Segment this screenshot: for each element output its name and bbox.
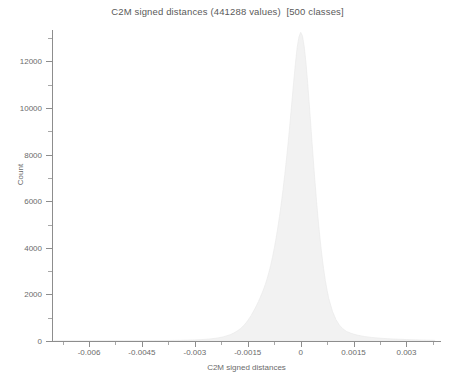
x-tick-mark — [248, 342, 249, 347]
x-tick-mark-minor — [168, 342, 169, 345]
x-tick-mark — [89, 342, 90, 347]
y-tick-mark-minor — [48, 225, 52, 226]
y-tick-mark-minor — [48, 178, 52, 179]
y-tick-mark — [46, 248, 52, 249]
y-tick-mark — [46, 341, 52, 342]
y-tick-label: 2000 — [0, 290, 42, 299]
y-tick-mark — [46, 201, 52, 202]
y-tick-mark — [46, 61, 52, 62]
y-axis-title: Count — [16, 145, 25, 205]
y-tick-mark — [46, 108, 52, 109]
x-tick-mark — [301, 342, 302, 347]
histogram-series — [52, 30, 440, 341]
x-tick-label: 0.0015 — [324, 348, 384, 357]
x-tick-label: -0.0045 — [112, 348, 172, 357]
x-tick-mark-minor — [380, 342, 381, 345]
x-tick-mark — [195, 342, 196, 347]
y-tick-mark — [46, 294, 52, 295]
x-tick-mark-minor — [433, 342, 434, 345]
histogram-chart: C2M signed distances (441288 values) [50… — [0, 0, 455, 380]
x-tick-mark-minor — [115, 342, 116, 345]
y-tick-mark — [46, 155, 52, 156]
x-tick-mark-minor — [63, 342, 64, 345]
x-tick-label: -0.003 — [165, 348, 225, 357]
x-tick-label: 0.003 — [376, 348, 436, 357]
x-tick-mark-minor — [327, 342, 328, 345]
plot-area — [52, 30, 440, 341]
y-tick-label: 4000 — [0, 243, 42, 252]
x-tick-label: 0 — [271, 348, 331, 357]
x-axis-title: C2M signed distances — [52, 363, 441, 372]
x-axis-line — [52, 341, 441, 342]
y-tick-label: 10000 — [0, 104, 42, 113]
histogram-area — [54, 32, 435, 341]
x-tick-mark-minor — [221, 342, 222, 345]
y-tick-label: 0 — [0, 337, 42, 346]
y-tick-label: 12000 — [0, 57, 42, 66]
chart-title: C2M signed distances (441288 values) [50… — [0, 6, 455, 17]
x-tick-label: -0.0015 — [218, 348, 278, 357]
y-tick-mark-minor — [48, 271, 52, 272]
y-tick-mark-minor — [48, 38, 52, 39]
y-axis-line — [52, 30, 53, 341]
x-tick-mark — [142, 342, 143, 347]
x-tick-label: -0.006 — [59, 348, 119, 357]
y-tick-mark-minor — [48, 318, 52, 319]
x-tick-mark — [354, 342, 355, 347]
x-tick-mark-minor — [274, 342, 275, 345]
y-tick-mark-minor — [48, 85, 52, 86]
y-tick-mark-minor — [48, 131, 52, 132]
x-tick-mark — [406, 342, 407, 347]
